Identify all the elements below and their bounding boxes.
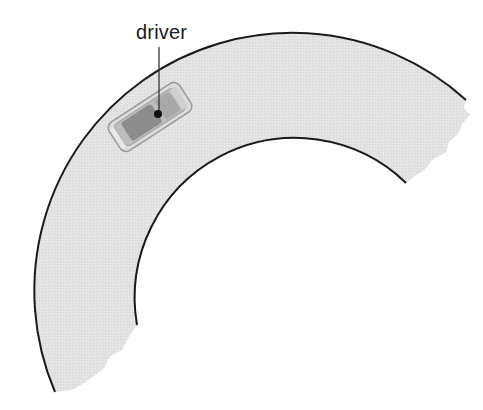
road-diagram bbox=[0, 0, 483, 410]
driver-label: driver bbox=[136, 21, 187, 44]
driver-dot bbox=[154, 110, 162, 118]
curved-road bbox=[34, 33, 470, 392]
